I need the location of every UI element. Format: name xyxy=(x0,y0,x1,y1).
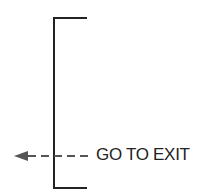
diagram-canvas xyxy=(0,0,214,195)
bracket-shape xyxy=(54,18,87,188)
arrow-left-icon xyxy=(14,151,28,161)
go-to-exit-label: GO TO EXIT xyxy=(96,145,190,165)
